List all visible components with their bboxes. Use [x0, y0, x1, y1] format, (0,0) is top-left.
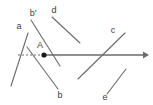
- label-e: e: [102, 93, 107, 102]
- figure-canvas: [0, 0, 153, 105]
- line-a-stroke: [11, 33, 28, 86]
- label-b: b: [57, 91, 62, 100]
- label-c: c: [111, 26, 116, 35]
- label-d: d: [51, 6, 56, 15]
- label-a: a: [16, 22, 21, 31]
- line-d-stroke: [52, 17, 80, 43]
- point-A-marker: [41, 52, 46, 57]
- arrow-head-icon: [143, 52, 149, 59]
- line-c-stroke: [78, 33, 125, 79]
- label-b-prime: b': [30, 9, 37, 18]
- geometry-figure: a b' d A b c e: [0, 0, 153, 105]
- label-point-a-uppercase: A: [37, 41, 43, 50]
- line-e-stroke: [107, 69, 126, 94]
